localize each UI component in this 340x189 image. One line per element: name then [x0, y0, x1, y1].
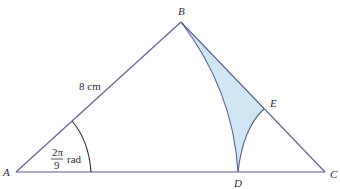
- angle-denominator: 9: [54, 159, 60, 171]
- side-ab: [16, 22, 181, 172]
- side-bc: [181, 22, 325, 172]
- triangle-diagram: A B C D E 8 cm 2π 9 rad: [0, 0, 340, 189]
- label-d: D: [233, 177, 242, 189]
- label-c: C: [330, 168, 338, 180]
- angle-unit: rad: [67, 153, 82, 165]
- label-a: A: [2, 166, 10, 178]
- side-length-label: 8 cm: [79, 80, 101, 92]
- label-e: E: [269, 97, 277, 109]
- angle-numerator: 2π: [52, 146, 64, 158]
- label-b: B: [178, 5, 185, 17]
